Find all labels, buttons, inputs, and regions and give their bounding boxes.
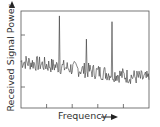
x-axis-label: Frequency xyxy=(58,110,107,122)
plot-frame xyxy=(21,11,149,108)
y-axis-label: Received Signal Power xyxy=(5,3,17,113)
spectrum-chart xyxy=(0,0,160,127)
spectrum-trace xyxy=(21,16,149,84)
